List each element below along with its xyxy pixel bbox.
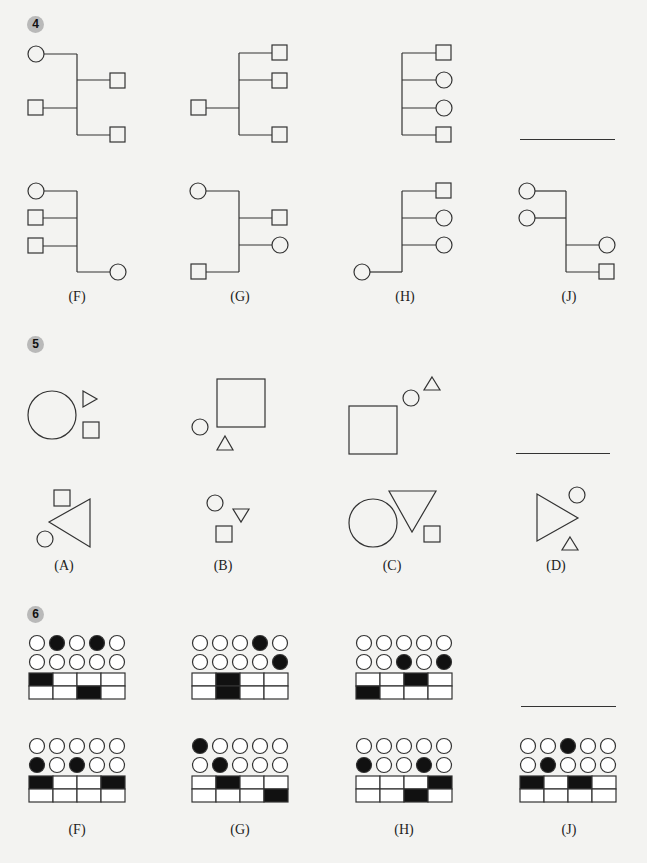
empty-cell — [101, 673, 125, 686]
empty-cell — [568, 789, 592, 802]
q4-option-g-label[interactable]: (G) — [220, 289, 260, 305]
empty-cell — [404, 686, 428, 699]
empty-cell — [240, 776, 264, 789]
q5-option-d[interactable] — [537, 487, 585, 550]
empty-dot — [50, 739, 65, 754]
empty-cell — [428, 789, 452, 802]
filled-dot — [417, 758, 432, 773]
empty-cell — [29, 789, 53, 802]
empty-dot — [273, 758, 288, 773]
empty-dot — [397, 739, 412, 754]
q6-answer-blank[interactable] — [521, 706, 616, 707]
empty-dot — [110, 739, 125, 754]
empty-dot — [70, 636, 85, 651]
empty-cell — [428, 686, 452, 699]
q5-option-b-label[interactable]: (B) — [203, 558, 243, 574]
filled-dot — [357, 758, 372, 773]
q6-option-f-label[interactable]: (F) — [57, 822, 97, 838]
q6-option-g[interactable] — [192, 739, 288, 803]
empty-dot — [253, 758, 268, 773]
q4-option-f[interactable] — [28, 183, 126, 280]
q4-option-f-label[interactable]: (F) — [57, 289, 97, 305]
q5-option-c-label[interactable]: (C) — [372, 558, 412, 574]
q6-stem-1 — [29, 636, 125, 700]
q6-stem-2 — [192, 636, 288, 700]
q5-option-d-label[interactable]: (D) — [536, 558, 576, 574]
filled-cell — [356, 686, 380, 699]
q4-option-h-label[interactable]: (H) — [385, 289, 425, 305]
empty-cell — [240, 686, 264, 699]
filled-dot — [30, 758, 45, 773]
empty-dot — [437, 758, 452, 773]
empty-dot — [601, 758, 616, 773]
q5-option-a-label[interactable]: (A) — [44, 558, 84, 574]
empty-dot — [233, 739, 248, 754]
empty-dot — [377, 758, 392, 773]
q5-stem-3 — [349, 377, 440, 454]
q5-option-a[interactable] — [37, 490, 90, 547]
empty-dot — [110, 636, 125, 651]
filled-dot — [561, 739, 576, 754]
filled-dot — [70, 758, 85, 773]
empty-cell — [192, 686, 216, 699]
q6-option-h[interactable] — [356, 739, 452, 803]
q4-option-j[interactable] — [519, 183, 615, 279]
filled-dot — [253, 636, 268, 651]
empty-dot — [30, 655, 45, 670]
empty-cell — [428, 673, 452, 686]
q6-option-g-label[interactable]: (G) — [220, 822, 260, 838]
empty-cell — [356, 789, 380, 802]
q4-stem-1 — [28, 46, 125, 142]
empty-dot — [90, 655, 105, 670]
empty-dot — [30, 739, 45, 754]
empty-dot — [581, 739, 596, 754]
empty-cell — [264, 686, 288, 699]
filled-cell — [216, 673, 240, 686]
empty-cell — [77, 776, 101, 789]
q6-option-j[interactable] — [520, 739, 616, 803]
q6-option-j-label[interactable]: (J) — [549, 822, 589, 838]
filled-dot — [213, 758, 228, 773]
filled-dot — [50, 636, 65, 651]
q5-answer-blank[interactable] — [516, 453, 610, 454]
q4-option-j-label[interactable]: (J) — [549, 289, 589, 305]
empty-dot — [417, 655, 432, 670]
empty-dot — [437, 636, 452, 651]
q4-option-h[interactable] — [354, 183, 452, 280]
figures-canvas — [0, 0, 647, 863]
empty-dot — [213, 655, 228, 670]
empty-dot — [193, 758, 208, 773]
empty-dot — [213, 739, 228, 754]
empty-cell — [77, 673, 101, 686]
empty-cell — [240, 673, 264, 686]
empty-cell — [53, 686, 77, 699]
filled-cell — [77, 686, 101, 699]
empty-cell — [53, 789, 77, 802]
q6-option-f[interactable] — [29, 739, 125, 803]
empty-dot — [90, 758, 105, 773]
q5-option-c[interactable] — [349, 491, 440, 547]
empty-cell — [404, 776, 428, 789]
empty-cell — [216, 789, 240, 802]
q5-option-b[interactable] — [207, 495, 249, 542]
empty-dot — [213, 636, 228, 651]
empty-dot — [253, 655, 268, 670]
empty-cell — [380, 686, 404, 699]
empty-dot — [233, 636, 248, 651]
empty-dot — [253, 739, 268, 754]
q4-answer-blank[interactable] — [520, 139, 615, 140]
q6-option-h-label[interactable]: (H) — [384, 822, 424, 838]
empty-cell — [544, 789, 568, 802]
filled-dot — [193, 739, 208, 754]
empty-cell — [356, 776, 380, 789]
empty-dot — [110, 758, 125, 773]
filled-cell — [29, 776, 53, 789]
empty-dot — [521, 758, 536, 773]
empty-dot — [357, 655, 372, 670]
filled-cell — [428, 776, 452, 789]
q4-stem-3 — [402, 45, 452, 142]
q4-option-g[interactable] — [190, 183, 288, 279]
empty-cell — [29, 686, 53, 699]
empty-dot — [377, 655, 392, 670]
empty-cell — [592, 789, 616, 802]
